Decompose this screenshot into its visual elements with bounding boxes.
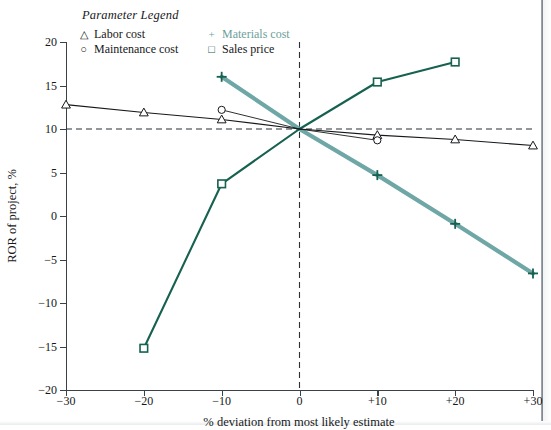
y-tick-label: 15 xyxy=(45,78,57,93)
x-axis-label: % deviation from most likely estimate xyxy=(203,415,394,430)
legend-title: Parameter Legend xyxy=(82,8,348,23)
y-tick-label: 0 xyxy=(51,209,57,224)
legend-item-label: Materials cost xyxy=(222,27,290,42)
x-tick-label: −20 xyxy=(134,394,153,409)
page-edge-line xyxy=(541,0,543,425)
chart-plot-area xyxy=(66,42,533,390)
page-edge-gradient xyxy=(543,0,551,425)
y-tick-label: −20 xyxy=(38,383,57,398)
series-materials-cost xyxy=(217,72,538,279)
data-point-circle xyxy=(218,106,225,113)
y-tick-label: −10 xyxy=(38,296,57,311)
y-tick-label: −5 xyxy=(44,252,57,267)
x-tick-label: +30 xyxy=(524,394,543,409)
y-tick-label: −15 xyxy=(38,339,57,354)
legend-item-labor-cost: △ Labor cost xyxy=(78,27,206,42)
data-point-circle xyxy=(374,137,381,144)
triangle-marker-icon: △ xyxy=(78,29,89,40)
plus-marker-icon: + xyxy=(206,29,217,40)
y-tick-label: 5 xyxy=(51,165,57,180)
sensitivity-chart: 20151050−5−10−15−20 −30−20−100+10+20+30 … xyxy=(66,42,533,390)
data-point-square xyxy=(451,58,459,66)
x-tick-label: 0 xyxy=(297,394,303,409)
y-tick-label: 10 xyxy=(45,122,57,137)
legend-item-label: Labor cost xyxy=(94,27,145,42)
data-point-square xyxy=(140,344,148,352)
x-tick-label: +10 xyxy=(368,394,387,409)
y-tick-label: 20 xyxy=(45,35,57,50)
x-tick-label: −30 xyxy=(57,394,76,409)
data-point-square xyxy=(374,78,382,86)
y-axis-label: ROR of project, % xyxy=(5,169,20,263)
x-tick-label: +20 xyxy=(446,394,465,409)
x-tick-label: −10 xyxy=(212,394,231,409)
data-point-square xyxy=(218,180,226,188)
data-point-triangle xyxy=(62,100,71,108)
legend-item-materials-cost: + Materials cost xyxy=(206,27,348,42)
